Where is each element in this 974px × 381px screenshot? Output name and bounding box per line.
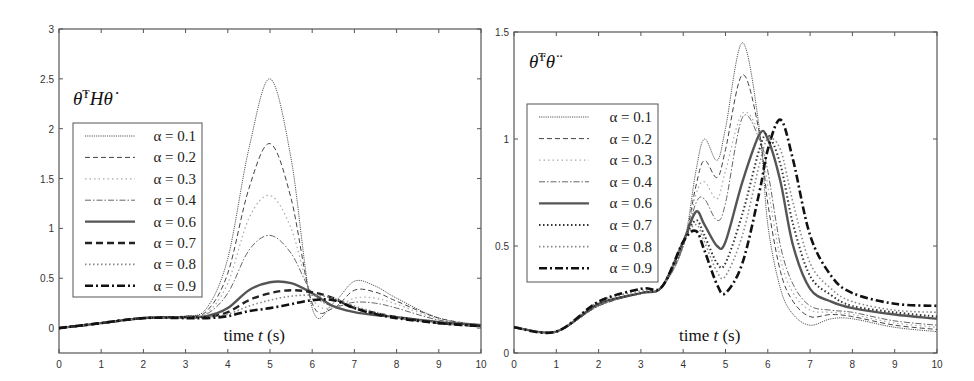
- legend-label: α = 0.8: [609, 239, 652, 255]
- y-tick-label: 0.5: [40, 273, 54, 284]
- y-tick-label: 1: [48, 223, 54, 234]
- legend-label: α = 0.2: [153, 149, 196, 165]
- x-tick-label: 0: [511, 359, 517, 370]
- legend-label: α = 0.6: [153, 214, 196, 230]
- x-tick-label: 3: [638, 359, 644, 370]
- legend-label: α = 0.4: [609, 174, 652, 190]
- x-tick-label: 0: [56, 359, 62, 370]
- x-tick-label: 10: [475, 359, 487, 370]
- x-tick-label: 5: [723, 359, 729, 370]
- x-tick-label: 9: [436, 359, 442, 370]
- time-axis-label: time t (s): [224, 326, 285, 345]
- legend-label: α = 0.1: [609, 109, 652, 125]
- legend-label: α = 0.7: [609, 217, 652, 233]
- legend-label: α = 0.9: [153, 278, 196, 294]
- legend-label: α = 0.1: [153, 128, 196, 144]
- x-tick-label: 2: [141, 359, 147, 370]
- x-tick-label: 4: [680, 359, 686, 370]
- y-tick-label: 1.5: [40, 174, 54, 185]
- x-tick-label: 4: [225, 359, 231, 370]
- y-tick-label: 3: [48, 24, 54, 35]
- x-tick-label: 9: [892, 359, 898, 370]
- x-tick-label: 8: [394, 359, 400, 370]
- left-chart: 01234567891000.511.522.53θ̇THθ̇time t (s…: [40, 24, 487, 370]
- y-tick-label: 0.5: [495, 241, 509, 252]
- y-tick-label: 2.5: [40, 74, 54, 85]
- y-tick-label: 1.5: [495, 27, 509, 38]
- figure-canvas: 01234567891000.511.522.53θ̇THθ̇time t (s…: [0, 0, 974, 381]
- x-tick-label: 8: [850, 359, 856, 370]
- legend-label: α = 0.8: [153, 256, 196, 272]
- y-tick-label: 2: [48, 124, 54, 135]
- y-tick-label: 0: [503, 348, 509, 359]
- x-tick-label: 5: [267, 359, 273, 370]
- x-tick-label: 10: [931, 359, 943, 370]
- y-tick-label: 0: [48, 323, 54, 334]
- x-tick-label: 6: [765, 359, 771, 370]
- x-tick-label: 3: [183, 359, 189, 370]
- legend-label: α = 0.3: [609, 152, 652, 168]
- x-tick-label: 6: [309, 359, 315, 370]
- y-tick-label: 1: [503, 134, 509, 145]
- legend-label: α = 0.6: [609, 195, 652, 211]
- legend-label: α = 0.3: [153, 171, 196, 187]
- legend-label: α = 0.9: [609, 260, 652, 276]
- x-tick-label: 7: [807, 359, 813, 370]
- legend-label: α = 0.7: [153, 235, 196, 251]
- time-axis-label: time t (s): [679, 326, 740, 345]
- legend-label: α = 0.2: [609, 131, 652, 147]
- x-tick-label: 1: [98, 359, 104, 370]
- right-chart: 01234567891000.511.5θ̈Tθ̈time t (s)α = 0…: [495, 27, 943, 370]
- legend-label: α = 0.4: [153, 192, 196, 208]
- x-tick-label: 7: [352, 359, 358, 370]
- x-tick-label: 2: [596, 359, 602, 370]
- x-tick-label: 1: [554, 359, 560, 370]
- chart-title: θ̇THθ̇: [73, 87, 119, 109]
